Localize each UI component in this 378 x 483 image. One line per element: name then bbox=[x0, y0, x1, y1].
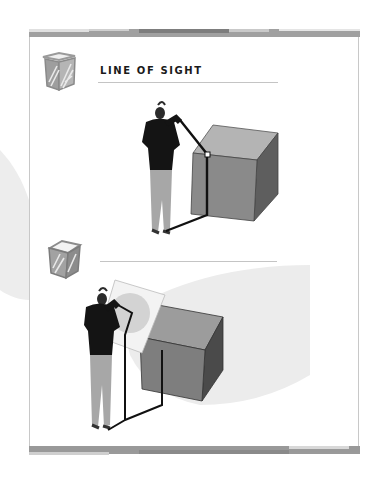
cube bbox=[191, 125, 278, 221]
section-title: LINE OF SIGHT bbox=[100, 65, 203, 76]
woman-figure bbox=[142, 102, 180, 233]
illustration-line-of-sight bbox=[130, 100, 290, 240]
bottom-texture-band bbox=[29, 446, 360, 454]
book-page: LINE OF SIGHT bbox=[0, 0, 378, 483]
illustration-picture-plane bbox=[80, 255, 320, 445]
title-underline bbox=[98, 82, 278, 83]
top-texture-band bbox=[29, 29, 360, 37]
woman-figure bbox=[84, 288, 120, 428]
sketched-cube-icon bbox=[41, 50, 85, 92]
